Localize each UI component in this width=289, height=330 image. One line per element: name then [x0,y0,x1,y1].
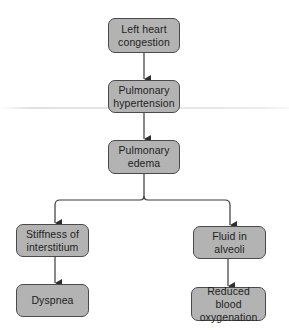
node-text-line: Pulmonary [113,84,174,97]
node-text-line: interstitium [26,241,79,254]
node-text-line: congestion [118,36,170,49]
edema-branch-right-join [144,196,148,200]
arrow-edema-to-stiffness [55,200,140,223]
node-text-line: hypertension [113,97,174,110]
node-pulmonary-hypertension: Pulmonary hypertension [108,80,180,113]
node-fluid-in-alveoli: Fluid in alveoli [193,226,266,259]
node-text-line: oxygenation [194,311,263,324]
node-stiffness-of-interstitium: Stiffness of interstitium [16,224,89,257]
node-text-line: Stiffness of [26,228,79,241]
node-dyspnea: Dyspnea [16,284,89,317]
node-text-line: Pulmonary [118,144,169,157]
node-text-line: Left heart [118,23,170,36]
node-text-line: Reduced blood [194,285,263,311]
node-pulmonary-edema: Pulmonary edema [108,140,180,174]
node-left-heart-congestion: Left heart congestion [108,18,180,53]
node-reduced-blood-oxygenation: Reduced blood oxygenation [191,287,266,321]
node-text-line: Dyspnea [31,294,73,307]
edema-branch-trunk [140,174,144,200]
node-text-line: Fluid in [212,230,247,243]
node-text-line: alveoli [212,243,247,256]
flowchart-canvas: Left heart congestion Pulmonary hyperten… [0,0,289,330]
node-text-line: edema [118,157,169,170]
arrow-edema-to-fluid [148,200,230,225]
